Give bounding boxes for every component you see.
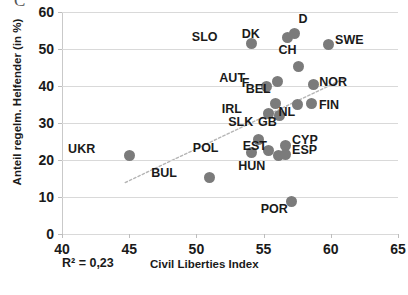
x-tick-label: 40 [42,242,82,256]
data-point-label: UKR [68,143,95,156]
gridline-horizontal [62,86,398,87]
data-point-label: CH [278,44,296,57]
y-tick-label: 40 [20,79,54,93]
data-point-label: GB [258,116,277,129]
data-point-label: SWE [335,34,363,47]
data-point[interactable] [323,39,334,50]
x-tick-mark [196,234,197,238]
x-tick-mark [62,234,63,238]
r-squared-annotation: R² = 0,23 [62,256,114,270]
data-point-label: SLK [228,116,253,129]
x-tick-label: 45 [109,242,149,256]
data-point[interactable] [272,76,283,87]
x-tick-mark [331,234,332,238]
x-tick-label: 50 [176,242,216,256]
y-tick-label: 10 [20,190,54,204]
data-point-label: NL [279,106,296,119]
data-point-label: IRL [222,103,242,116]
y-tick-label: 60 [20,5,54,19]
data-point[interactable] [280,149,291,160]
x-tick-label: 60 [311,242,351,256]
x-axis-title: Civil Liberties Index [150,258,259,270]
data-point-label: POR [261,203,288,216]
gridline-horizontal [62,160,398,161]
y-tick-mark [58,12,62,13]
y-tick-mark [58,123,62,124]
data-point-label: BEL [246,83,271,96]
x-tick-label: 65 [378,242,408,256]
y-tick-mark [58,49,62,50]
data-point-label: POL [193,142,219,155]
y-tick-label: 30 [20,116,54,130]
y-tick-label: 50 [20,42,54,56]
data-point-label: HUN [238,160,265,173]
x-tick-mark [398,234,399,238]
y-axis-title: Anteil regelm. Helfender (in %) [11,7,23,197]
data-point[interactable] [308,79,319,90]
y-tick-label: 0 [20,227,54,241]
gridline-horizontal [62,197,398,198]
y-tick-mark [58,86,62,87]
data-point-label: FIN [319,99,339,112]
plot-area: UKRBULSLOPOLSLKESTFIRLBELAUTHUNCYPESPDKD… [62,12,398,234]
x-tick-label: 55 [244,242,284,256]
x-tick-mark [264,234,265,238]
data-point-label: EST [243,140,267,153]
scatter-chart-figure: C Anteil regelm. Helfender (in %) UKRBUL… [0,0,408,295]
data-point-label: SLO [192,31,218,44]
data-point[interactable] [286,196,297,207]
data-point-label: AUT [219,72,245,85]
gridline-horizontal [62,12,398,13]
data-point-label: NOR [319,76,347,89]
data-point-label: BUL [151,167,177,180]
data-point-label: D [299,13,308,26]
y-tick-mark [58,160,62,161]
y-tick-mark [58,197,62,198]
gridline-horizontal [62,234,398,235]
data-point-label: DK [242,28,260,41]
y-tick-label: 20 [20,153,54,167]
data-point[interactable] [289,28,300,39]
gridline-horizontal [62,49,398,50]
data-point[interactable] [124,150,135,161]
x-tick-mark [129,234,130,238]
data-point-label: ESP [292,144,317,157]
